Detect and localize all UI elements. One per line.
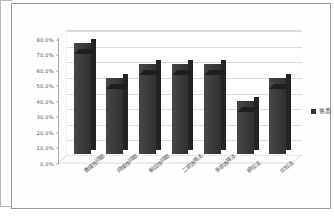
document-edge-left bbox=[0, 0, 1, 207]
y-axis-tick-label: 30.0% bbox=[37, 114, 54, 120]
y-axis-tick-mark bbox=[56, 117, 59, 118]
bar-top-face bbox=[237, 97, 259, 102]
bar-top-face bbox=[269, 74, 291, 79]
bar-column[interactable] bbox=[106, 78, 123, 154]
bar-front-face bbox=[204, 64, 221, 154]
bar-side-face bbox=[254, 97, 259, 150]
legend-swatch-icon bbox=[311, 109, 316, 114]
y-axis-tick-label: 0.0% bbox=[40, 161, 54, 167]
y-axis-tick-label: 80.0% bbox=[37, 37, 54, 43]
bar-top-face bbox=[74, 39, 96, 44]
bar-top-face bbox=[139, 60, 161, 65]
y-axis-tick-label: 70.0% bbox=[37, 52, 54, 58]
bar-column[interactable] bbox=[139, 64, 156, 154]
gridline bbox=[67, 47, 302, 48]
bar-side-face bbox=[91, 39, 96, 150]
y-axis-tick-label: 40.0% bbox=[37, 99, 54, 105]
bar-front-face bbox=[74, 43, 91, 154]
bar-front-face bbox=[139, 64, 156, 154]
plot-area: 0.0%10.0%20.0%30.0%40.0%50.0%60.0%70.0%8… bbox=[58, 30, 301, 163]
bar-front-face bbox=[106, 78, 123, 154]
y-axis-tick-mark bbox=[56, 132, 59, 133]
bar-front-face bbox=[172, 64, 189, 154]
bar-column[interactable] bbox=[269, 78, 286, 154]
bar-top-face bbox=[172, 60, 194, 65]
chart-canvas: 0.0%10.0%20.0%30.0%40.0%50.0%60.0%70.0%8… bbox=[14, 6, 328, 206]
y-axis-tick-label: 20.0% bbox=[37, 130, 54, 136]
y-axis-tick-mark bbox=[56, 39, 59, 40]
bar-column[interactable] bbox=[237, 101, 254, 154]
bar-column[interactable] bbox=[74, 43, 91, 154]
y-axis-tick-mark bbox=[56, 163, 59, 164]
bar-top-face bbox=[106, 74, 128, 79]
y-axis-tick-label: 10.0% bbox=[37, 145, 54, 151]
bar-column[interactable] bbox=[172, 64, 189, 154]
legend-label: 熟悉 bbox=[319, 107, 331, 115]
y-axis-tick-label: 50.0% bbox=[37, 83, 54, 89]
y-axis-tick-mark bbox=[56, 101, 59, 102]
y-axis-tick-mark bbox=[56, 70, 59, 71]
document-edge-top bbox=[0, 0, 12, 1]
bar-column[interactable] bbox=[204, 64, 221, 154]
chart-left-depth-panel bbox=[58, 30, 67, 164]
chart-legend[interactable]: 熟悉 bbox=[311, 107, 331, 115]
bar-front-face bbox=[269, 78, 286, 154]
y-axis-tick-label: 60.0% bbox=[37, 68, 54, 74]
y-axis-tick-mark bbox=[56, 148, 59, 149]
bar-top-face bbox=[204, 60, 226, 65]
gridline bbox=[67, 31, 302, 32]
chart-frame[interactable]: 0.0%10.0%20.0%30.0%40.0%50.0%60.0%70.0%8… bbox=[11, 3, 331, 209]
y-axis-tick-mark bbox=[56, 55, 59, 56]
y-axis-tick-mark bbox=[56, 86, 59, 87]
